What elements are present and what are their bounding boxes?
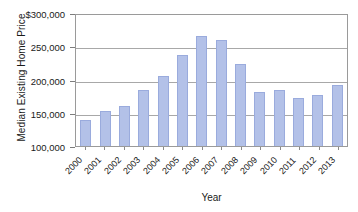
x-tick-mark — [124, 147, 125, 150]
x-tick-label: 2010 — [258, 155, 279, 176]
bar-2006 — [196, 36, 207, 146]
bar-2008 — [235, 64, 246, 146]
x-tick-mark — [299, 147, 300, 150]
x-tick-label: 2002 — [102, 155, 123, 176]
bar-2013 — [332, 85, 343, 146]
bar-slot — [289, 15, 308, 146]
x-tick-mark — [104, 147, 105, 150]
x-tick-label: 2006 — [180, 155, 201, 176]
y-tick-label: $300,000 — [25, 9, 65, 20]
y-axis-ticks: $300,000250,000200,000150,000100,000 — [0, 0, 75, 161]
bar-slot — [328, 15, 347, 146]
x-tick-mark — [241, 147, 242, 150]
bar-slot — [153, 15, 172, 146]
x-tick-label: 2007 — [199, 155, 220, 176]
x-tick-mark — [260, 147, 261, 150]
bar-2004 — [158, 76, 169, 146]
bar-2009 — [254, 92, 265, 146]
bar-slot — [308, 15, 327, 146]
x-tick-mark — [202, 147, 203, 150]
y-tick-label: 100,000 — [31, 142, 65, 153]
bar-slot — [250, 15, 269, 146]
x-tick-label: 2003 — [121, 155, 142, 176]
x-tick-mark — [280, 147, 281, 150]
bar-slot — [192, 15, 211, 146]
x-tick-mark — [221, 147, 222, 150]
bar-2007 — [216, 40, 227, 146]
y-tick-label: 200,000 — [31, 75, 65, 86]
x-tick-label: 2008 — [219, 155, 240, 176]
x-axis-title: Year — [75, 192, 348, 203]
bar-slot — [76, 15, 95, 146]
x-tick-mark — [143, 147, 144, 150]
bar-2012 — [312, 95, 323, 146]
x-tick-label: 2001 — [82, 155, 103, 176]
x-tick-mark — [182, 147, 183, 150]
x-tick-label: 2012 — [297, 155, 318, 176]
bar-slot — [115, 15, 134, 146]
bar-slot — [134, 15, 153, 146]
x-tick-label: 2013 — [316, 155, 337, 176]
bar-2005 — [177, 55, 188, 146]
bar-2010 — [274, 90, 285, 146]
bar-slot — [231, 15, 250, 146]
bar-2011 — [293, 98, 304, 146]
bar-chart: Median Existing Home Price $300,000250,0… — [0, 0, 358, 212]
bar-slot — [212, 15, 231, 146]
bar-2001 — [100, 111, 111, 146]
y-tick-mark — [70, 147, 75, 148]
bar-2003 — [138, 90, 149, 146]
bar-slot — [95, 15, 114, 146]
y-tick-label: 250,000 — [31, 42, 65, 53]
x-tick-mark — [85, 147, 86, 150]
x-tick-mark — [319, 147, 320, 150]
bar-series — [76, 15, 347, 146]
x-tick-mark — [338, 147, 339, 150]
x-axis-ticks: 2000200120022003200420052006200720082009… — [75, 149, 348, 189]
y-tick-label: 150,000 — [31, 108, 65, 119]
bar-2000 — [80, 120, 91, 146]
bar-2002 — [119, 106, 130, 146]
x-tick-label: 2005 — [160, 155, 181, 176]
x-tick-label: 2011 — [277, 155, 298, 176]
bar-slot — [173, 15, 192, 146]
x-tick-label: 2009 — [238, 155, 259, 176]
x-tick-mark — [163, 147, 164, 150]
x-tick-label: 2004 — [141, 155, 162, 176]
plot-area — [75, 14, 348, 147]
bar-slot — [270, 15, 289, 146]
